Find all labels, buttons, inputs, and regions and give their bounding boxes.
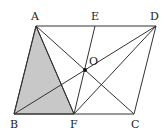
label-c: C bbox=[131, 118, 139, 131]
label-b: B bbox=[10, 118, 18, 131]
label-a: A bbox=[30, 10, 40, 23]
point-o-dot bbox=[83, 68, 87, 72]
label-e: E bbox=[91, 10, 99, 23]
label-d: D bbox=[150, 10, 159, 23]
geometry-figure: A E D B F C O bbox=[0, 0, 164, 135]
segment-dc bbox=[134, 26, 156, 114]
label-f: F bbox=[70, 118, 78, 131]
shaded-triangle-abf bbox=[14, 26, 74, 114]
label-o: O bbox=[89, 55, 98, 68]
